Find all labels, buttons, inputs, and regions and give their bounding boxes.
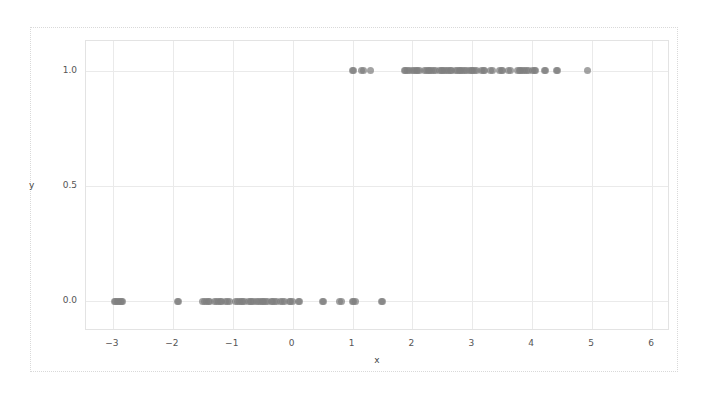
x-tick-label: 1 [349, 338, 355, 348]
scatter-point [367, 67, 374, 74]
y-tick-label: 0.5 [51, 180, 77, 190]
gridline-vertical [532, 41, 533, 329]
gridline-vertical [592, 41, 593, 329]
x-tick-label: −1 [225, 338, 238, 348]
scatter-point [379, 298, 386, 305]
scatter-point [338, 298, 345, 305]
scatter-point [352, 298, 359, 305]
gridline-horizontal [86, 186, 668, 187]
y-tick-label: 0.0 [51, 295, 77, 305]
y-axis-label: y [29, 180, 34, 190]
x-tick-label: −2 [165, 338, 178, 348]
gridline-vertical [412, 41, 413, 329]
gridline-vertical [353, 41, 354, 329]
scatter-point [584, 67, 591, 74]
x-tick-label: 3 [468, 338, 474, 348]
scatter-point [320, 298, 327, 305]
scatter-point [542, 67, 549, 74]
gridline-vertical [233, 41, 234, 329]
scatter-point [119, 298, 126, 305]
gridline-vertical [293, 41, 294, 329]
gridline-vertical [113, 41, 114, 329]
gridline-vertical [472, 41, 473, 329]
scatter-point [350, 67, 357, 74]
y-tick-label: 1.0 [51, 65, 77, 75]
x-tick-label: 5 [588, 338, 594, 348]
scatter-point [296, 298, 303, 305]
scatter-point [175, 298, 182, 305]
scatter-point [507, 67, 514, 74]
x-tick-label: 4 [528, 338, 534, 348]
gridline-vertical [652, 41, 653, 329]
x-tick-label: 2 [409, 338, 415, 348]
x-tick-label: 0 [289, 338, 295, 348]
scatter-point [360, 67, 367, 74]
scatter-point [489, 67, 496, 74]
scatter-point [532, 67, 539, 74]
x-tick-label: 6 [648, 338, 654, 348]
x-tick-label: −3 [105, 338, 118, 348]
gridline-horizontal [86, 71, 668, 72]
scatter-point [554, 67, 561, 74]
plot-area [85, 40, 669, 330]
x-axis-label: x [374, 355, 379, 365]
figure: x y −3−2−101234560.00.51.0 [0, 0, 711, 397]
gridline-vertical [173, 41, 174, 329]
